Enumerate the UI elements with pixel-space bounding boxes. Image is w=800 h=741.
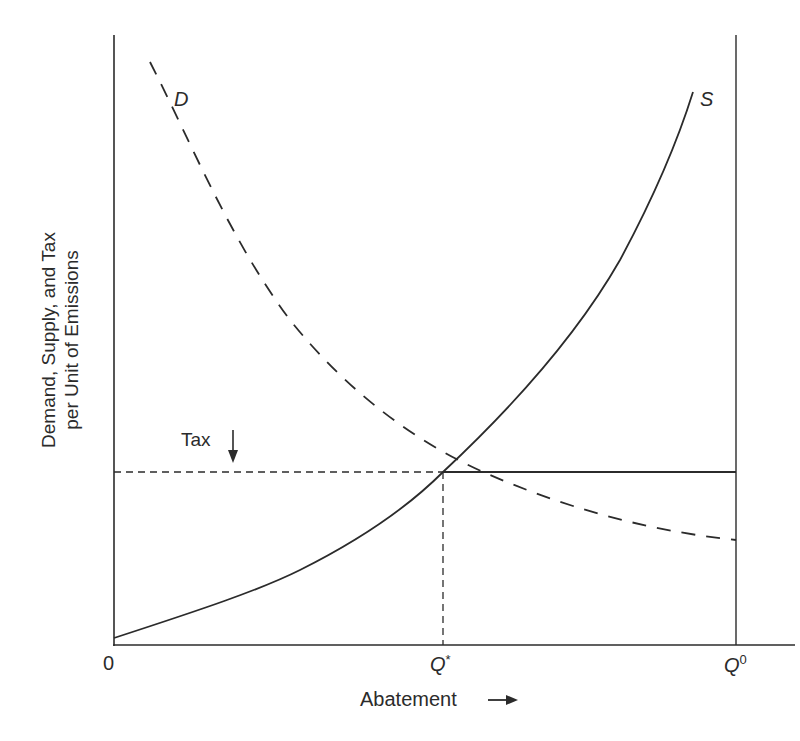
tax-label: Tax — [181, 429, 211, 451]
origin-label: 0 — [103, 652, 114, 675]
demand-curve-label: D — [174, 88, 188, 111]
y-axis-label-line1: Demand, Supply, and Tax — [37, 232, 60, 448]
q-zero-superscript: 0 — [740, 652, 747, 667]
demand-curve — [150, 62, 736, 540]
x-axis-label: Abatement — [360, 688, 457, 711]
abatement-arrow-icon — [506, 695, 518, 705]
q-star-letter: Q — [430, 653, 446, 675]
abatement-diagram — [0, 0, 800, 741]
tax-arrow-icon — [228, 450, 238, 463]
q-zero-letter: Q — [724, 654, 740, 676]
q-zero-label: Q0 — [724, 652, 747, 677]
q-star-superscript: * — [446, 652, 451, 667]
q-star-label: Q* — [430, 652, 451, 676]
supply-curve — [114, 92, 693, 638]
y-axis-label-line2: per Unit of Emissions — [60, 232, 83, 448]
supply-curve-label: S — [700, 88, 713, 111]
